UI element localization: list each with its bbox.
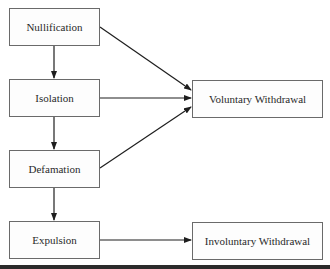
arrow-nullification-to-voluntary — [100, 27, 191, 90]
node-label: Involuntary Withdrawal — [205, 235, 310, 247]
node-voluntary-withdrawal: Voluntary Withdrawal — [192, 80, 323, 118]
node-involuntary-withdrawal: Involuntary Withdrawal — [192, 222, 323, 260]
node-label: Defamation — [29, 163, 81, 175]
node-isolation: Isolation — [9, 79, 100, 117]
bottom-border — [0, 265, 330, 269]
arrow-defamation-to-voluntary — [100, 107, 191, 168]
node-label: Isolation — [35, 92, 74, 104]
node-label: Nullification — [26, 21, 82, 33]
node-expulsion: Expulsion — [9, 221, 100, 259]
node-label: Expulsion — [32, 234, 77, 246]
node-nullification: Nullification — [9, 8, 100, 46]
node-label: Voluntary Withdrawal — [209, 93, 306, 105]
node-defamation: Defamation — [9, 150, 100, 188]
